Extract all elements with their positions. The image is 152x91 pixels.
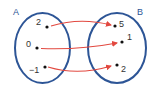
element-label: 5: [119, 19, 124, 29]
element-label: 2: [121, 64, 126, 74]
arrow-0-to-1: [41, 43, 117, 49]
element-label: −1: [29, 65, 39, 75]
set-a: A 2 0 −1: [13, 7, 70, 83]
element-label: 0: [26, 39, 31, 49]
set-b: B 5 1 2: [88, 7, 146, 83]
arrow-neg1-to-2: [48, 66, 111, 71]
element-dot: [45, 25, 48, 28]
element-dot: [115, 63, 118, 66]
element-dot: [43, 65, 46, 68]
set-b-ellipse: [88, 13, 146, 83]
mapping-arrows: [41, 21, 117, 71]
set-b-label: B: [137, 7, 143, 17]
element-label: 2: [36, 17, 41, 27]
element-dot: [120, 40, 123, 43]
element-dot: [113, 24, 116, 27]
set-a-label: A: [13, 7, 19, 17]
element-label: 1: [127, 32, 132, 42]
mapping-diagram: A 2 0 −1 B 5 1 2: [0, 0, 152, 91]
element-dot: [35, 46, 38, 49]
